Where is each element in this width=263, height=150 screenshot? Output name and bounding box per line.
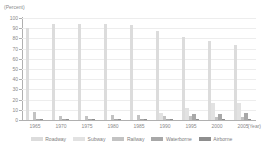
legend-item-roadway[interactable]: Roadway: [31, 136, 66, 142]
legend-label: Airborne: [213, 136, 232, 142]
y-axis-unit-label: (Percent): [4, 4, 25, 10]
bar-roadway: [156, 31, 159, 120]
bar-roadway: [104, 24, 107, 120]
bar-roadway: [130, 25, 133, 120]
bar-airborne: [196, 119, 199, 120]
y-tick-label: 90: [2, 25, 18, 31]
y-tick-label: 40: [2, 76, 18, 82]
chart-legend: RoadwaySubwayRailwayWaterborneAirborne: [0, 136, 263, 142]
legend-swatch-icon: [151, 137, 163, 142]
bar-group: [208, 18, 226, 120]
legend-label: Roadway: [45, 136, 66, 142]
bar-airborne: [66, 119, 69, 120]
bar-roadway: [78, 24, 81, 120]
legend-item-airborne[interactable]: Airborne: [199, 136, 232, 142]
x-tick-label: 1985: [133, 123, 144, 129]
y-tick-label: 60: [2, 56, 18, 62]
y-tick-label: 10: [2, 107, 18, 113]
legend-swatch-icon: [199, 137, 211, 142]
legend-item-waterborne[interactable]: Waterborne: [151, 136, 191, 142]
y-tick-label: 20: [2, 97, 18, 103]
bar-airborne: [222, 119, 225, 120]
bar-airborne: [92, 119, 95, 120]
y-tick-label: 80: [2, 35, 18, 41]
legend-swatch-icon: [31, 137, 43, 142]
x-tick-label: 1975: [81, 123, 92, 129]
bar-chart: (Percent) 0102030405060708090100 1965197…: [0, 0, 263, 150]
y-tick-label: 50: [2, 66, 18, 72]
bar-group: [130, 18, 148, 120]
bar-group: [234, 18, 252, 120]
x-tick-label: 2000: [211, 123, 222, 129]
y-tick-label: 70: [2, 46, 18, 52]
bar-airborne: [40, 119, 43, 120]
x-tick-label: 1970: [55, 123, 66, 129]
legend-label: Subway: [88, 136, 106, 142]
legend-swatch-icon: [112, 137, 124, 142]
legend-label: Railway: [127, 136, 145, 142]
bar-group: [52, 18, 70, 120]
bar-roadway: [26, 28, 29, 120]
x-axis-unit-label: (Year): [248, 123, 261, 129]
bar-group: [26, 18, 44, 120]
y-tick-label: 30: [2, 86, 18, 92]
y-tick-label: 100: [2, 15, 18, 21]
x-tick-label: 1990: [159, 123, 170, 129]
x-tick-label: 1995: [185, 123, 196, 129]
x-tick-label: 1965: [29, 123, 40, 129]
bar-airborne: [118, 119, 121, 120]
plot-area: [22, 18, 256, 120]
bar-airborne: [248, 119, 251, 120]
bar-airborne: [144, 119, 147, 120]
y-tick-label: 0: [2, 117, 18, 123]
x-axis-line: [22, 120, 256, 121]
bar-group: [78, 18, 96, 120]
bar-roadway: [52, 24, 55, 120]
bar-airborne: [170, 119, 173, 120]
bar-group: [156, 18, 174, 120]
legend-swatch-icon: [73, 137, 85, 142]
x-tick-label: 1980: [107, 123, 118, 129]
legend-item-subway[interactable]: Subway: [73, 136, 105, 142]
bar-group: [182, 18, 200, 120]
bar-group: [104, 18, 122, 120]
y-tick-mark: [19, 120, 22, 121]
legend-item-railway[interactable]: Railway: [112, 136, 144, 142]
legend-label: Waterborne: [166, 136, 192, 142]
